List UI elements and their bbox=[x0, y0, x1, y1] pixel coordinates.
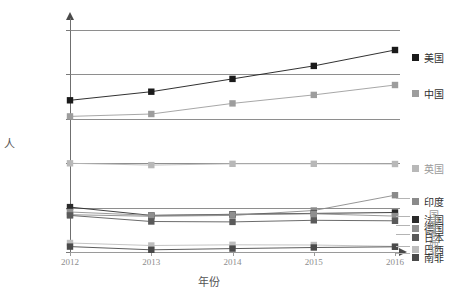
legend-item-非[interactable]: 非 bbox=[429, 246, 439, 261]
legend-label: 美国 bbox=[424, 50, 444, 65]
legend-swatch bbox=[412, 234, 419, 241]
legend-item-印度[interactable]: 印度 bbox=[412, 194, 444, 209]
chart-container: 人 年份 0198K395K593K791K989K 2012201320142… bbox=[0, 0, 465, 295]
legend-label: 中国 bbox=[424, 86, 444, 101]
legend-leader-line bbox=[396, 216, 410, 217]
legend-leader-line bbox=[396, 225, 410, 226]
legend-leader-line bbox=[396, 234, 410, 235]
legend-swatch bbox=[412, 165, 419, 172]
legend-leader-line bbox=[396, 198, 410, 199]
legend-item-英国[interactable]: 英国 bbox=[412, 161, 444, 176]
legend-leader-line bbox=[396, 253, 410, 254]
legend-swatch bbox=[412, 198, 419, 205]
legend-item-中国[interactable]: 中国 bbox=[412, 86, 444, 101]
legend-item-美国[interactable]: 美国 bbox=[412, 50, 444, 65]
legend-leader-line bbox=[396, 246, 410, 247]
legend-item-南非[interactable]: 南非 bbox=[412, 250, 444, 265]
chart-legend: 美国中国英国印度法国德国日本巴西南非国国本西非 bbox=[0, 0, 465, 295]
legend-swatch bbox=[412, 90, 419, 97]
legend-label: 非 bbox=[429, 246, 439, 261]
legend-swatch bbox=[412, 54, 419, 61]
legend-swatch bbox=[412, 254, 419, 261]
legend-label: 英国 bbox=[424, 161, 444, 176]
